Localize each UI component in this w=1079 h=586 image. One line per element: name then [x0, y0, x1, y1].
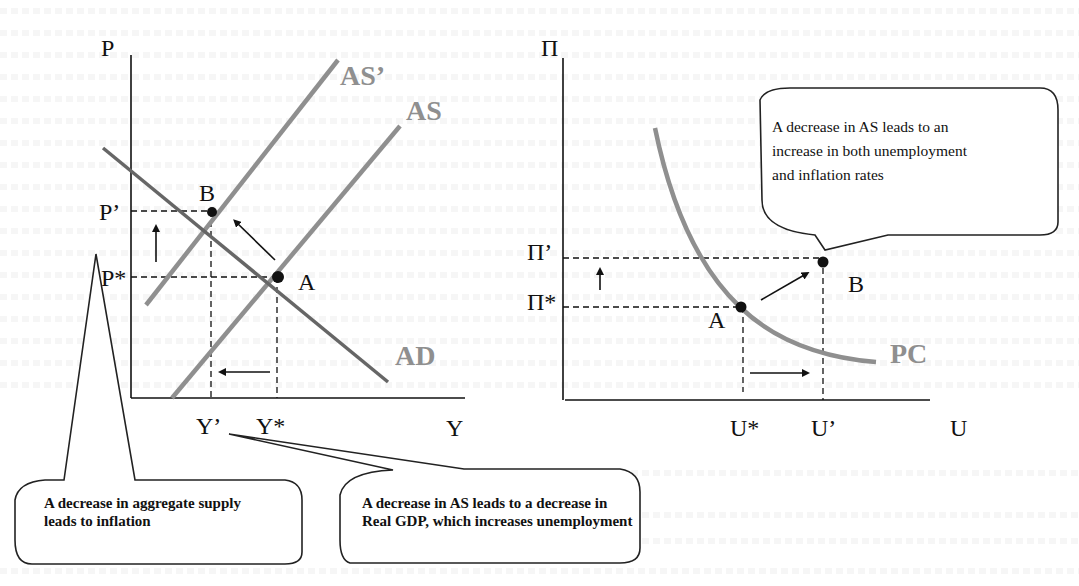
- callout-phillips-line-3: and inflation rates: [772, 165, 967, 184]
- point-a-marker-pc: [736, 302, 747, 313]
- tick-u-star: U*: [730, 416, 759, 440]
- callout-inflation-line-2: leads to inflation: [44, 512, 241, 530]
- ad-curve: [103, 148, 388, 382]
- point-a-marker: [272, 271, 284, 283]
- left-x-axis-label: Y: [446, 416, 463, 440]
- callout-gdp-line-1: A decrease in AS leads to a decrease in: [362, 494, 632, 512]
- tick-p-star: P*: [101, 266, 126, 290]
- callout-inflation-text: A decrease in aggregate supply leads to …: [44, 494, 241, 530]
- callout-gdp-line-2: Real GDP, which increases unemployment: [362, 512, 632, 530]
- right-x-axis-label: U: [950, 416, 967, 440]
- callout-phillips-line-1: A decrease in AS leads to an: [772, 117, 967, 136]
- arrow-a-to-b: [236, 222, 275, 260]
- tick-y-prime: Y’: [196, 414, 221, 438]
- point-b-label: B: [199, 181, 215, 205]
- point-a-label-pc: A: [708, 308, 725, 332]
- as-curve: [172, 126, 400, 398]
- tick-y-star: Y*: [256, 414, 285, 438]
- ad-label: AD: [395, 342, 435, 370]
- arrow-a-to-b-pc: [761, 274, 806, 300]
- point-b-marker: [207, 207, 217, 217]
- callout-phillips-line-2: increase in both unemployment: [772, 141, 967, 160]
- callout-phillips-text: A decrease in AS leads to an increase in…: [772, 117, 967, 184]
- left-y-axis-label: P: [101, 36, 114, 60]
- tick-pi-star: Π*: [527, 290, 556, 314]
- point-a-label: A: [298, 270, 315, 294]
- tick-u-prime: U’: [811, 416, 836, 440]
- as-label: AS: [406, 97, 442, 125]
- tick-pi-prime: Π’: [527, 240, 552, 264]
- as-prime-label: AS’: [340, 62, 385, 90]
- right-y-axis-label: Π: [541, 36, 558, 60]
- point-b-label-pc: B: [848, 272, 864, 296]
- left-guides: [131, 211, 277, 398]
- tick-p-prime: P’: [99, 200, 120, 224]
- right-guides: [563, 258, 823, 400]
- pc-label: PC: [890, 340, 927, 368]
- callout-inflation-line-1: A decrease in aggregate supply: [44, 494, 241, 512]
- point-b-marker-pc: [818, 257, 829, 268]
- callout-gdp-text: A decrease in AS leads to a decrease in …: [362, 494, 632, 530]
